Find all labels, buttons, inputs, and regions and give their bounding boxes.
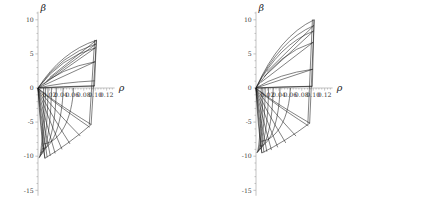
upper-cross-line: [47, 44, 96, 81]
upper-cross-line: [261, 42, 313, 82]
plot-panel-left: 0.020.040.060.080.100.12105-5-10-150ρβ: [0, 0, 217, 209]
upper-cross-line: [267, 26, 314, 72]
y-tick-label: 5: [248, 50, 252, 57]
y-tick-label: -10: [24, 152, 34, 159]
x-tick-label: 0.12: [100, 91, 114, 98]
y-axis-label: β: [258, 2, 265, 13]
y-axis-label: β: [40, 2, 47, 13]
y-tick-label: 5: [30, 50, 34, 57]
y-tick-label: -15: [24, 187, 34, 194]
y-tick-label: 10: [244, 16, 252, 23]
x-axis-label: ρ: [118, 82, 125, 93]
y-tick-label: -10: [242, 152, 252, 159]
x-tick-label: 0.12: [318, 91, 332, 98]
y-tick-label: 0: [30, 84, 34, 91]
plot-panel-right: 0.020.040.060.080.100.12105-5-10-150ρβ: [218, 0, 435, 209]
curves-group: [38, 40, 96, 158]
x-axis-label: ρ: [336, 82, 343, 93]
upper-cross-line: [43, 48, 95, 84]
plot-svg-left: 0.020.040.060.080.100.12105-5-10-150ρβ: [0, 0, 217, 209]
two-panel-plot-figure: 0.020.040.060.080.100.12105-5-10-150ρβ 0…: [0, 0, 435, 209]
y-tick-label: 10: [26, 16, 34, 23]
y-tick-label: -15: [242, 187, 252, 194]
curves-group: [256, 19, 314, 153]
y-tick-label: 0: [248, 84, 252, 91]
y-tick-label: -5: [28, 118, 34, 125]
plot-svg-right: 0.020.040.060.080.100.12105-5-10-150ρβ: [218, 0, 435, 209]
y-tick-label: -5: [246, 118, 252, 125]
bottom-envelope-curve: [262, 123, 310, 153]
